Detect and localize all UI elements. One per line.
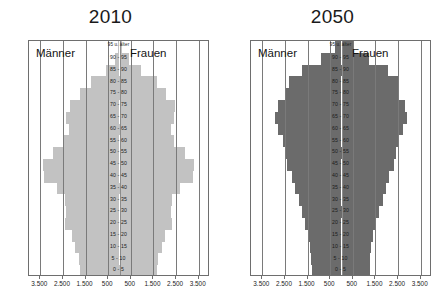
bar-female	[120, 76, 157, 88]
x-tick-label: 1.500	[366, 280, 382, 287]
bar-male	[70, 100, 120, 112]
bar-male	[91, 76, 119, 88]
age-band	[251, 147, 430, 159]
bar-female	[342, 88, 399, 100]
gridline	[353, 41, 354, 275]
age-band	[29, 194, 208, 206]
x-tick-mark	[307, 276, 308, 279]
group-label-male-2050: Männer	[258, 47, 297, 59]
bar-female	[120, 265, 158, 276]
x-tick-label: 3.500	[412, 280, 428, 287]
x-tick-label: 2.500	[54, 280, 70, 287]
age-band	[29, 230, 208, 242]
x-tick-label: 500	[346, 280, 357, 287]
bar-female	[120, 183, 180, 195]
x-tick-label: 3.500	[253, 280, 269, 287]
age-band	[29, 124, 208, 136]
bar-male	[299, 194, 342, 206]
bar-male	[66, 206, 119, 218]
center-axis-line	[120, 41, 121, 275]
bar-male	[286, 88, 341, 100]
bar-male	[65, 194, 119, 206]
chart-panel-2010: 2010 0 - 55 - 1010 - 1515 - 2020 - 2525 …	[0, 0, 221, 297]
age-band	[29, 135, 208, 147]
bar-male	[311, 253, 341, 265]
bar-male	[309, 230, 342, 242]
x-tick-mark	[85, 276, 86, 279]
bar-female	[120, 100, 175, 112]
chart-panel-2050: 2050 0 - 55 - 1010 - 1515 - 2020 - 2525 …	[222, 0, 443, 297]
age-band	[251, 194, 430, 206]
bar-female	[120, 242, 162, 254]
age-band	[251, 88, 430, 100]
plot-area-2010	[28, 40, 209, 276]
age-band	[251, 124, 430, 136]
bar-male	[321, 53, 341, 65]
bar-male	[69, 124, 120, 136]
x-tick-mark	[374, 276, 375, 279]
bar-male	[64, 135, 119, 147]
panel-title-2010: 2010	[0, 6, 221, 28]
center-axis-line	[342, 41, 343, 275]
x-tick-mark	[284, 276, 285, 279]
gridline	[153, 41, 154, 275]
x-tick-mark	[62, 276, 63, 279]
bar-female	[342, 206, 380, 218]
bar-female	[342, 100, 405, 112]
age-band	[29, 183, 208, 195]
x-tick-mark	[175, 276, 176, 279]
x-tick-label: 500	[324, 280, 335, 287]
age-band	[29, 76, 208, 88]
bar-female	[120, 194, 172, 206]
age-band	[29, 88, 208, 100]
x-tick-mark	[397, 276, 398, 279]
x-tick-label: 3.500	[190, 280, 206, 287]
bar-male	[75, 242, 119, 254]
bar-female	[342, 183, 387, 195]
bar-female	[120, 206, 171, 218]
bar-male	[283, 135, 342, 147]
bar-female	[120, 253, 159, 265]
age-band	[29, 65, 208, 77]
gridline	[63, 41, 64, 275]
bar-male	[285, 147, 342, 159]
age-band	[251, 265, 430, 276]
age-band	[251, 65, 430, 77]
gridline	[176, 41, 177, 275]
gridline	[285, 41, 286, 275]
age-band	[29, 100, 208, 112]
x-tick-mark	[39, 276, 40, 279]
bar-female	[342, 159, 394, 171]
x-tick-label: 1.500	[144, 280, 160, 287]
bar-male	[292, 171, 342, 183]
bar-male	[289, 76, 341, 88]
x-tick-label: 2.500	[389, 280, 405, 287]
gridline	[375, 41, 376, 275]
bar-female	[342, 230, 373, 242]
bar-male	[305, 218, 341, 230]
gridline	[330, 41, 331, 275]
age-band	[251, 206, 430, 218]
x-tick-label: 3.500	[31, 280, 47, 287]
x-tick-mark	[152, 276, 153, 279]
age-band	[29, 171, 208, 183]
bar-female	[342, 253, 371, 265]
bar-female	[342, 171, 390, 183]
x-tick-mark	[261, 276, 262, 279]
x-axis-2010: 3.5002.5001.5005005001.5002.5003.500	[28, 276, 209, 296]
bar-female	[120, 147, 185, 159]
bar-female	[342, 218, 376, 230]
bar-female	[120, 124, 171, 136]
bar-male	[295, 183, 341, 195]
x-tick-label: 500	[124, 280, 135, 287]
age-band	[251, 135, 430, 147]
age-band	[251, 100, 430, 112]
age-band	[29, 147, 208, 159]
age-band	[29, 218, 208, 230]
bar-female	[120, 53, 129, 65]
bar-female	[342, 242, 372, 254]
x-tick-mark	[198, 276, 199, 279]
age-band	[29, 159, 208, 171]
bar-female	[120, 135, 175, 147]
gridline	[398, 41, 399, 275]
